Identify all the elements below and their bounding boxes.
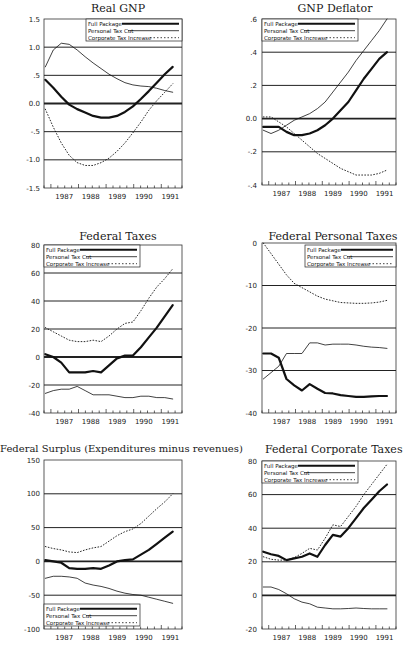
y-tick-label: 0 xyxy=(36,558,40,566)
chart-panel-3: 0-10-20-30-4019871988198919901991Full Pa… xyxy=(246,240,396,427)
x-tick-label: 1990 xyxy=(350,190,368,198)
x-tick-label: 1991 xyxy=(161,634,179,642)
plot-frame xyxy=(262,19,396,185)
legend-label: Personal Tax Cut xyxy=(264,28,310,34)
legend-label: Personal Tax Cut xyxy=(46,254,92,260)
y-tick-label: -.2 xyxy=(248,148,257,156)
x-tick-label: 1991 xyxy=(376,418,394,426)
y-tick-label: -20 xyxy=(246,626,257,634)
legend-label: Full Package xyxy=(46,606,81,613)
y-tick-label: -20 xyxy=(29,382,40,390)
chart-panel-0: 1.51.0.50.0-.5-1.0-1.5198719881989199019… xyxy=(26,16,182,202)
series-line-full-package xyxy=(263,485,387,561)
y-tick-label: 100 xyxy=(27,490,40,498)
legend-label: Full Package xyxy=(46,247,81,254)
y-tick-label: -20 xyxy=(246,325,257,333)
x-tick-label: 1987 xyxy=(273,418,291,426)
x-tick-label: 1988 xyxy=(82,418,100,426)
x-tick-label: 1989 xyxy=(108,193,126,201)
x-tick-label: 1991 xyxy=(161,418,179,426)
y-tick-label: 1.5 xyxy=(29,16,40,24)
y-tick-label: 1.0 xyxy=(29,44,40,52)
series-line-corporate-tax-increase xyxy=(45,84,172,166)
legend-label: Corporate Tax Increase xyxy=(264,477,328,484)
plot-frame xyxy=(262,461,396,629)
chart-panel-5: 806040200-2019871988198919901991Full Pac… xyxy=(246,458,396,643)
legend-label: Personal Tax Cut xyxy=(264,470,310,476)
y-tick-label: -40 xyxy=(246,410,257,418)
y-tick-label: 0 xyxy=(36,354,40,362)
y-tick-label: 40 xyxy=(248,525,257,533)
y-tick-label: 0 xyxy=(253,592,257,600)
y-tick-label: 0 xyxy=(253,240,257,248)
x-tick-label: 1991 xyxy=(161,193,179,201)
y-tick-label: 80 xyxy=(31,242,40,250)
legend-label: Personal Tax Cut xyxy=(46,613,92,619)
series-line-full-package xyxy=(263,354,387,397)
y-tick-label: 20 xyxy=(31,326,40,334)
legend: Full PackagePersonal Tax CutCorporate Ta… xyxy=(262,461,358,484)
chart-panel-4: 150100500-50-10019871988198919901991Full… xyxy=(24,457,182,643)
y-tick-label: 150 xyxy=(27,457,40,465)
y-tick-label: -10 xyxy=(246,282,257,290)
y-tick-label: 80 xyxy=(248,458,257,466)
x-tick-label: 1987 xyxy=(55,418,73,426)
legend-label: Personal Tax Cut xyxy=(88,28,134,34)
series-line-corporate-tax-increase xyxy=(45,494,172,553)
legend: Full PackagePersonal Tax CutCorporate Ta… xyxy=(44,245,140,268)
y-tick-label: -1.5 xyxy=(26,185,40,193)
legend-label: Personal Tax Cut xyxy=(307,254,353,260)
x-tick-label: 1990 xyxy=(135,634,153,642)
x-tick-label: 1989 xyxy=(324,634,342,642)
y-tick-label: .5 xyxy=(33,72,40,80)
legend: Full PackagePersonal Tax CutCorporate Ta… xyxy=(305,245,396,268)
legend: Full PackagePersonal Tax CutCorporate Ta… xyxy=(44,604,140,627)
x-tick-label: 1989 xyxy=(108,418,126,426)
x-tick-label: 1988 xyxy=(298,418,316,426)
series-line-personal-tax-cut xyxy=(45,386,172,399)
y-tick-label: 0.0 xyxy=(246,115,257,123)
y-tick-label: 0.0 xyxy=(29,100,40,108)
legend: Full PackagePersonal Tax CutCorporate Ta… xyxy=(262,19,358,42)
x-tick-label: 1991 xyxy=(376,190,394,198)
y-tick-label: -30 xyxy=(246,367,257,375)
legend-label: Full Package xyxy=(264,21,299,28)
series-line-full-package xyxy=(45,305,172,372)
series-line-personal-tax-cut xyxy=(263,343,387,379)
y-tick-label: -1.0 xyxy=(26,156,40,164)
x-tick-label: 1988 xyxy=(82,634,100,642)
x-tick-label: 1989 xyxy=(108,634,126,642)
x-tick-label: 1987 xyxy=(55,193,73,201)
x-tick-label: 1991 xyxy=(376,634,394,642)
series-line-full-package xyxy=(263,52,387,135)
y-tick-label: -40 xyxy=(29,410,40,418)
x-tick-label: 1990 xyxy=(350,418,368,426)
y-tick-label: -50 xyxy=(29,592,40,600)
x-tick-label: 1989 xyxy=(324,190,342,198)
chart-canvas: 1.51.0.50.0-.5-1.0-1.5198719881989199019… xyxy=(0,0,403,661)
chart-panel-2: 806040200-20-4019871988198919901991Full … xyxy=(29,242,182,427)
y-tick-label: -.4 xyxy=(248,182,258,190)
x-tick-label: 1987 xyxy=(273,190,291,198)
legend: Full PackagePersonal Tax CutCorporate Ta… xyxy=(86,19,182,42)
legend-label: Corporate Tax Increase xyxy=(46,620,110,627)
legend-label: Corporate Tax Increase xyxy=(307,261,371,268)
legend-label: Full Package xyxy=(264,463,299,470)
x-tick-label: 1987 xyxy=(273,634,291,642)
y-tick-label: -.5 xyxy=(31,128,40,136)
legend-label: Corporate Tax Increase xyxy=(88,35,152,42)
x-tick-label: 1989 xyxy=(324,418,342,426)
x-tick-label: 1987 xyxy=(55,634,73,642)
x-tick-label: 1990 xyxy=(135,418,153,426)
legend-label: Corporate Tax Increase xyxy=(264,35,328,42)
x-tick-label: 1988 xyxy=(298,634,316,642)
x-tick-label: 1990 xyxy=(350,634,368,642)
series-line-personal-tax-cut xyxy=(263,587,387,609)
series-line-full-package xyxy=(45,532,172,569)
y-tick-label: .2 xyxy=(250,82,257,90)
chart-panel-1: .6.4.20.0-.2-.419871988198919901991Full … xyxy=(246,16,396,199)
x-tick-label: 1988 xyxy=(298,190,316,198)
x-tick-label: 1988 xyxy=(82,193,100,201)
y-tick-label: -100 xyxy=(24,626,40,634)
y-tick-label: 60 xyxy=(31,270,40,278)
